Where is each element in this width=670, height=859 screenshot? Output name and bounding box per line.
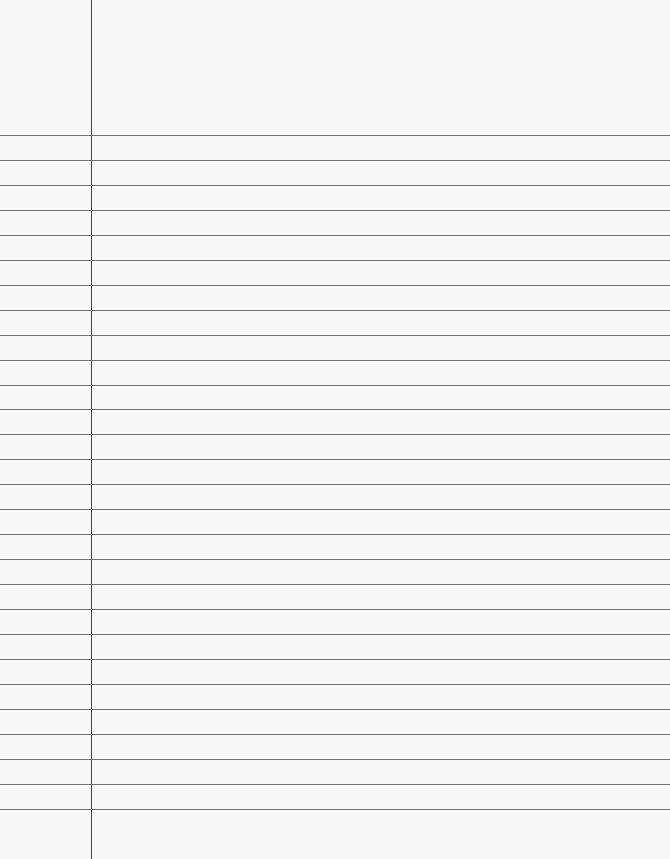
ruled-line <box>0 684 670 685</box>
ruled-line <box>0 659 670 660</box>
ruled-line <box>0 634 670 635</box>
ruled-line <box>0 310 670 311</box>
ruled-line <box>0 210 670 211</box>
ruled-line <box>0 135 670 136</box>
ruled-line <box>0 360 670 361</box>
ruled-line <box>0 160 670 161</box>
ruled-line <box>0 559 670 560</box>
ruled-line <box>0 534 670 535</box>
ruled-line <box>0 459 670 460</box>
ruled-line <box>0 759 670 760</box>
lined-paper-sheet <box>0 0 670 859</box>
ruled-line <box>0 484 670 485</box>
margin-line <box>91 0 92 859</box>
ruled-line <box>0 709 670 710</box>
ruled-line <box>0 809 670 810</box>
ruled-line <box>0 335 670 336</box>
ruled-line <box>0 784 670 785</box>
ruled-line <box>0 409 670 410</box>
ruled-line <box>0 509 670 510</box>
ruled-line <box>0 260 670 261</box>
ruled-line <box>0 609 670 610</box>
ruled-line <box>0 185 670 186</box>
ruled-line <box>0 734 670 735</box>
ruled-line <box>0 285 670 286</box>
ruled-line <box>0 584 670 585</box>
ruled-line <box>0 235 670 236</box>
ruled-line <box>0 434 670 435</box>
ruled-line <box>0 385 670 386</box>
